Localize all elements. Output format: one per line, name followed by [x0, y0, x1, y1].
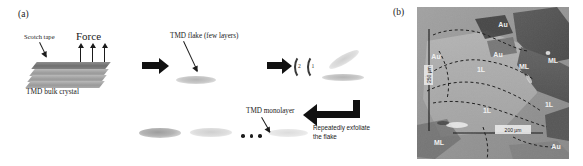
- ellipsis-dot-1: [241, 134, 245, 138]
- ellipsis-dot-2: [250, 134, 254, 138]
- exfoliated-flake-1: [139, 128, 181, 138]
- exfoliated-flake-2: [190, 128, 232, 137]
- repeat-arrow-head: [303, 104, 317, 126]
- micrograph-svg: 250 µm 200 µm AuAuAuAu1L1L1LMLMLML: [417, 7, 569, 159]
- ellipsis-dot-3: [258, 134, 262, 138]
- repeat-caption-line-2: the flake: [313, 133, 375, 142]
- crystal-layer-top: [31, 62, 110, 69]
- panel-b-letter: (b): [393, 8, 404, 18]
- ellipsis-dots: [241, 134, 262, 138]
- thin-flake-tilted: [327, 47, 361, 72]
- thin-flake-horizontal: [322, 74, 364, 81]
- monolayer-flake-blob: [268, 129, 308, 137]
- scotch-tape-label: Scotch tape: [24, 34, 55, 41]
- force-label: Force: [76, 31, 101, 42]
- scotch-tape-pointer-arrow: [39, 42, 47, 57]
- tmd-flake-label: TMD flake (few layers): [170, 33, 238, 40]
- layer-count-arcs: 2 1: [294, 54, 324, 78]
- layer-arc-number-1: 1: [312, 63, 315, 69]
- figure-root: (a) Scotch tape Force TMD bulk crystal T…: [0, 0, 583, 166]
- repeat-exfoliation-caption: Repeatedly exfoliate the flake: [313, 124, 375, 141]
- tmd-flake-pointer-arrow: [183, 41, 198, 71]
- repeat-caption-line-1: Repeatedly exfoliate: [313, 124, 375, 133]
- micrograph-noise-overlay: [417, 7, 569, 159]
- tmd-bulk-crystal-label: TMD bulk crystal: [26, 88, 79, 95]
- panel-b-micrograph: 250 µm 200 µm AuAuAuAu1L1L1LMLMLML: [417, 7, 569, 159]
- tmd-monolayer-label: TMD monolayer: [246, 108, 295, 115]
- layer-arc-1: [307, 55, 322, 79]
- panel-a: (a) Scotch tape Force TMD bulk crystal T…: [0, 0, 400, 166]
- few-layer-flake-blob: [176, 76, 216, 84]
- panel-a-letter: (a): [18, 10, 29, 20]
- layer-arc-number-2: 2: [298, 63, 301, 69]
- process-arrow-1: [142, 62, 160, 69]
- repeat-arrow-horizontal-segment: [316, 111, 360, 118]
- repeat-exfoliation-arrow: [316, 100, 366, 120]
- tmd-monolayer-pointer-arrow: [261, 117, 270, 132]
- process-arrow-2: [267, 62, 283, 69]
